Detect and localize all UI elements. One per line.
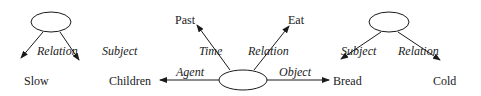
node-cold: Cold — [433, 74, 456, 88]
edge-time: Time — [199, 44, 223, 58]
center-concept-node — [219, 70, 267, 90]
edge-left-subject: Subject — [102, 44, 138, 58]
left-concept-node — [31, 12, 71, 32]
edge-left-relation: Relation — [36, 44, 78, 58]
node-eat: Eat — [288, 13, 305, 27]
node-past: Past — [175, 13, 196, 27]
node-slow: Slow — [24, 74, 49, 88]
semantic-network-diagram: Slow Children Past Eat Bread Cold Relati… — [0, 0, 481, 96]
edge-object: Object — [279, 65, 312, 79]
node-children: Children — [109, 74, 151, 88]
edge-right-subject: Subject — [341, 44, 377, 58]
right-concept-node — [369, 12, 409, 32]
node-bread: Bread — [333, 74, 362, 88]
edge-right-relation: Relation — [397, 44, 439, 58]
edge-agent: Agent — [175, 65, 205, 79]
edge-center-relation: Relation — [247, 44, 289, 58]
